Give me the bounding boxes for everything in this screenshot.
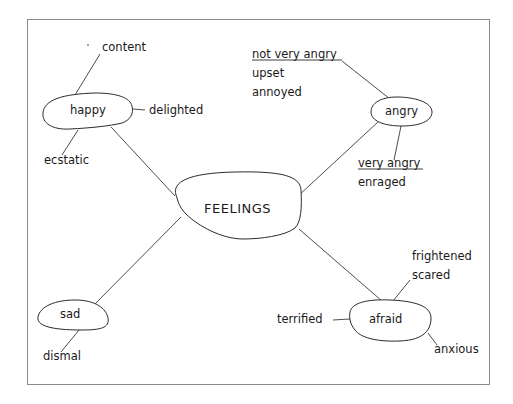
leaf-dismal: dismal [43, 349, 81, 363]
edge-afraid-terrified [333, 319, 350, 320]
leaf-delighted: delighted [149, 103, 203, 117]
leaf-anxious: anxious [434, 342, 479, 356]
angry-label: angry [385, 104, 418, 118]
leaf-ecstatic: ecstatic [44, 153, 89, 167]
mind-map-canvas: FEELINGS happy angry sad afraid content … [0, 0, 513, 404]
leaf-not-very-angry: not very angry [252, 47, 337, 61]
leaf-scared: scared [412, 268, 450, 282]
node-angry[interactable]: angry [371, 97, 432, 126]
node-sad[interactable]: sad [38, 300, 108, 330]
edge-center-afraid [299, 229, 382, 301]
edge-center-happy [111, 127, 175, 196]
leaf-frightened: frightened [412, 249, 472, 263]
edge-happy-ecstatic [62, 130, 78, 155]
leaf-terrified: terrified [277, 312, 323, 326]
center-label: FEELINGS [204, 201, 271, 216]
edge-angry-notvery [342, 61, 390, 99]
edge-angry-very [394, 126, 401, 160]
afraid-label: afraid [369, 312, 402, 326]
edge-happy-content [75, 54, 100, 95]
leaf-enraged: enraged [358, 175, 406, 189]
node-happy[interactable]: happy [43, 93, 133, 129]
edge-happy-delighted [133, 109, 145, 110]
edge-afraid-scared [393, 280, 410, 301]
happy-label: happy [70, 103, 106, 117]
leaf-annoyed: annoyed [252, 85, 302, 99]
leaf-upset: upset [252, 66, 285, 80]
leaf-content: content [102, 40, 147, 54]
node-feelings[interactable]: FEELINGS [175, 172, 301, 239]
edge-center-sad [93, 217, 181, 306]
stray-dot [87, 44, 89, 46]
sad-label: sad [60, 307, 80, 321]
node-afraid[interactable]: afraid [350, 300, 431, 341]
leaf-very-angry: very angry [358, 156, 420, 170]
